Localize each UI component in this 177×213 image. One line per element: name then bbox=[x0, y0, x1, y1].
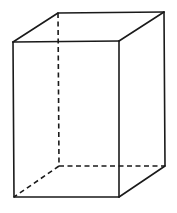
edge-back-top-right-to-back-bottom-right bbox=[164, 12, 165, 166]
visible-edges bbox=[13, 12, 165, 197]
rectangular-prism-diagram bbox=[0, 0, 177, 213]
hidden-edge-back-top-left-to-back-bottom-left bbox=[58, 13, 59, 166]
edge-back-top-right-to-front-top-right bbox=[119, 12, 164, 41]
hidden-edge-back-bottom-left-to-front-bottom-left bbox=[14, 166, 59, 197]
edge-back-bottom-right-to-front-bottom-right bbox=[119, 166, 165, 197]
edge-front-bottom-left-to-front-top-left bbox=[13, 42, 14, 197]
edge-back-top-left-to-back-top-right bbox=[58, 12, 164, 13]
edge-front-top-left-to-back-top-left bbox=[13, 13, 58, 42]
diagram-canvas bbox=[0, 0, 177, 213]
edge-front-top-left-to-front-top-right bbox=[13, 41, 119, 42]
